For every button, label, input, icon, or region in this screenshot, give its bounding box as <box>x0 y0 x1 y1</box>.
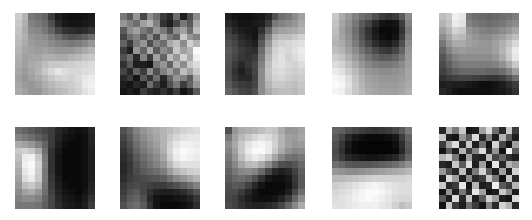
image-patch-r1c5 <box>439 13 519 95</box>
image-patch-r2c4 <box>332 127 412 209</box>
image-patch-r1c2 <box>120 13 200 95</box>
image-patch-r1c1 <box>15 13 95 95</box>
image-patch-r2c2 <box>120 127 200 209</box>
image-patch-r2c5 <box>439 127 519 209</box>
image-patch-r1c4 <box>332 13 412 95</box>
image-patch-r2c1 <box>15 127 95 209</box>
image-patch-r1c3 <box>225 13 305 95</box>
image-patch-r2c3 <box>225 127 305 209</box>
